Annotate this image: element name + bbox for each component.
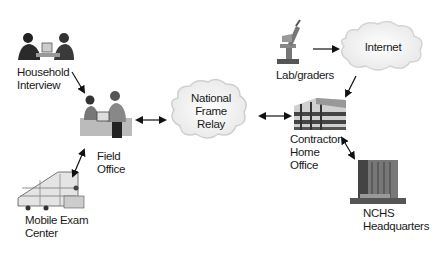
nchs-label-line1: NCHS (363, 207, 429, 220)
internet-label-line1: Internet (358, 41, 408, 54)
nchs-label: NCHS Headquarters (363, 207, 429, 233)
relay-label-line1: National (183, 92, 239, 105)
contractor-label: Contractor Home Office (290, 133, 341, 172)
lab-label-line1: Lab/graders (276, 69, 334, 82)
relay-label: National Frame Relay (183, 92, 239, 131)
office-workers-icon (80, 91, 132, 138)
mobile-exam-label: Mobile Exam Center (25, 214, 88, 240)
tower-building-icon (350, 160, 406, 204)
edge-field-mobile (73, 150, 84, 176)
trailer-icon (18, 172, 84, 211)
lab-graders-label: Lab/graders (276, 69, 334, 82)
mobile-label-line2: Center (25, 227, 88, 240)
edge-household-field (72, 72, 84, 92)
contractor-label-line2: Home (290, 146, 341, 159)
edge-contractor-nchs (342, 138, 354, 158)
mobile-label-line1: Mobile Exam (25, 214, 88, 227)
field-label-line2: Office (97, 163, 125, 176)
household-label: Household Interview (17, 66, 69, 92)
people-at-computer-icon (18, 33, 74, 60)
field-office-label: Field Office (97, 150, 125, 176)
contractor-label-line1: Contractor (290, 133, 341, 146)
microscope-icon (277, 20, 300, 64)
household-label-line2: Interview (17, 79, 69, 92)
office-building-icon (294, 98, 346, 130)
relay-label-line2: Frame (183, 105, 239, 118)
field-label-line1: Field (97, 150, 125, 163)
household-label-line1: Household (17, 66, 69, 79)
relay-label-line3: Relay (183, 118, 239, 131)
contractor-label-line3: Office (290, 159, 341, 172)
nchs-label-line2: Headquarters (363, 220, 429, 233)
internet-label: Internet (358, 41, 408, 54)
edge-internet-contractor (346, 76, 356, 96)
